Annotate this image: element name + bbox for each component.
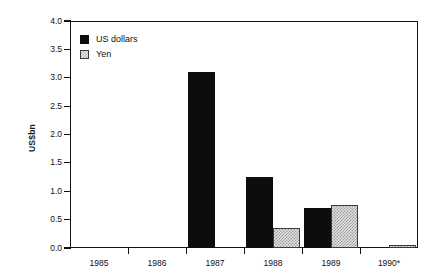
y-axis-tick bbox=[64, 106, 71, 107]
x-axis-tick bbox=[186, 248, 187, 254]
bar-us-dollars-1988 bbox=[246, 177, 273, 248]
bar-us-dollars-1987 bbox=[188, 72, 215, 248]
x-axis-tick bbox=[360, 248, 361, 254]
y-axis-tick bbox=[64, 134, 71, 135]
y-axis-tick-label: 3.0 bbox=[18, 73, 62, 82]
y-axis-tick-label: 1.5 bbox=[18, 158, 62, 167]
y-axis-tick-label: 0.5 bbox=[18, 215, 62, 224]
legend-item-us-dollars: US dollars bbox=[80, 33, 138, 46]
y-axis-tick bbox=[64, 219, 71, 220]
x-axis-tick-label: 1990* bbox=[359, 258, 419, 268]
x-axis-tick bbox=[128, 248, 129, 254]
x-axis-tick bbox=[302, 248, 303, 254]
x-axis-tick-label: 1988 bbox=[243, 258, 303, 268]
y-axis-tick bbox=[64, 247, 71, 248]
y-axis-tick bbox=[64, 20, 71, 21]
y-axis-tick-label: 2.0 bbox=[18, 130, 62, 139]
y-axis-tick bbox=[64, 162, 71, 163]
legend-label-yen: Yen bbox=[96, 50, 111, 59]
y-axis-tick bbox=[64, 49, 71, 50]
y-axis-tick-label: 1.0 bbox=[18, 187, 62, 196]
x-axis-tick-label: 1986 bbox=[127, 258, 187, 268]
legend: US dollars Yen bbox=[80, 33, 138, 63]
y-axis-tick-label: 3.5 bbox=[18, 45, 62, 54]
bar-yen-1990 bbox=[389, 245, 416, 248]
bar-chart: US$bn 0.00.51.01.52.02.53.03.54.0 198519… bbox=[0, 0, 438, 277]
y-axis-tick bbox=[64, 77, 71, 78]
y-axis-tick-label: 0.0 bbox=[18, 244, 62, 253]
legend-label-us-dollars: US dollars bbox=[96, 35, 138, 44]
bar-us-dollars-1989 bbox=[304, 208, 331, 248]
legend-swatch-yen bbox=[80, 50, 89, 59]
x-axis-tick bbox=[244, 248, 245, 254]
x-axis-tick-label: 1985 bbox=[69, 258, 129, 268]
y-axis-tick-label: 4.0 bbox=[18, 17, 62, 26]
y-axis-tick-label: 2.5 bbox=[18, 102, 62, 111]
legend-swatch-us-dollars bbox=[80, 35, 89, 44]
legend-item-yen: Yen bbox=[80, 48, 138, 61]
x-axis-tick-label: 1989 bbox=[301, 258, 361, 268]
y-axis-tick bbox=[64, 191, 71, 192]
x-axis-tick-label: 1987 bbox=[185, 258, 245, 268]
bar-yen-1988 bbox=[273, 228, 300, 248]
bar-yen-1989 bbox=[331, 205, 358, 248]
